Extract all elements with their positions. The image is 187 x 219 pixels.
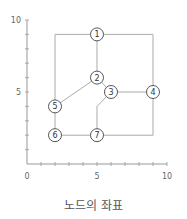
node-label: 5 [52, 102, 57, 111]
node-coordinate-diagram: 0510510 1234567 [0, 0, 187, 219]
node-2: 2 [91, 71, 104, 84]
node-label: 4 [150, 88, 155, 97]
y-tick-label: 10 [11, 16, 21, 25]
edge-4-7 [97, 92, 153, 135]
node-3: 3 [105, 86, 118, 99]
x-tick-label: 0 [24, 172, 29, 181]
node-4: 4 [147, 86, 160, 99]
y-tick-label: 5 [16, 88, 21, 97]
x-tick-label: 10 [162, 172, 172, 181]
edge-1-5 [55, 34, 97, 106]
edge-2-5 [55, 78, 97, 107]
node-label: 1 [94, 30, 99, 39]
node-label: 2 [94, 74, 99, 83]
axes: 0510510 [11, 16, 172, 181]
node-7: 7 [91, 129, 104, 142]
edge-1-4 [97, 34, 153, 92]
node-label: 7 [94, 131, 99, 140]
x-tick-label: 5 [94, 172, 99, 181]
edges [55, 34, 153, 135]
node-label: 3 [108, 88, 113, 97]
node-6: 6 [49, 129, 62, 142]
node-5: 5 [49, 100, 62, 113]
node-label: 6 [52, 131, 57, 140]
node-1: 1 [91, 28, 104, 41]
diagram-caption: 노드의 좌표 [0, 196, 187, 213]
